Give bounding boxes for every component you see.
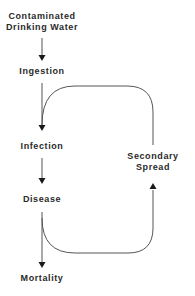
node-infection: Infection	[21, 141, 64, 152]
loop-secondary-spread-to-infection	[42, 86, 153, 145]
disease-transmission-flowchart: Contaminated Drinking Water Ingestion In…	[0, 0, 195, 296]
node-ingestion: Ingestion	[19, 66, 64, 77]
node-label-line: Secondary	[127, 151, 178, 162]
arrowhead-up-icon	[150, 183, 157, 189]
arrowhead-down-icon	[39, 262, 46, 268]
node-label-text: Ingestion	[19, 66, 64, 76]
arrowhead-down-icon	[39, 178, 46, 184]
node-contaminated-drinking-water: Contaminated Drinking Water	[6, 11, 78, 33]
node-label-line: Spread	[127, 162, 178, 173]
node-disease: Disease	[23, 194, 61, 205]
node-mortality: Mortality	[21, 273, 64, 284]
arrowhead-down-icon	[39, 55, 46, 61]
node-label-text: Mortality	[21, 273, 64, 283]
node-secondary-spread: Secondary Spread	[127, 151, 178, 173]
arrowhead-down-icon	[39, 125, 46, 131]
node-label-line: Contaminated	[6, 11, 78, 22]
node-label-text: Infection	[21, 141, 64, 151]
node-label-text: Disease	[23, 194, 61, 204]
node-label-line: Drinking Water	[6, 22, 78, 33]
